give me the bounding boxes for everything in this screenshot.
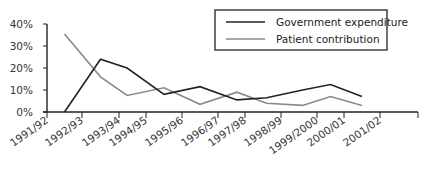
series-line-0	[65, 59, 363, 112]
y-tick-label: 20%	[10, 62, 33, 74]
y-axis: 0%10%20%30%40%	[10, 18, 47, 118]
x-axis: 1991/921992/931993/941994/951995/961996/…	[8, 112, 418, 156]
x-tick-label: 1991/92	[8, 114, 51, 149]
line-chart: 0%10%20%30%40% 1991/921992/931993/941994…	[0, 0, 427, 172]
y-tick-label: 10%	[10, 84, 33, 96]
x-tick-label: 1992/93	[43, 114, 86, 149]
x-tick-label: 1995/96	[143, 114, 186, 149]
legend-label-government: Government expenditure	[276, 16, 408, 28]
y-tick-label: 30%	[10, 40, 33, 52]
legend-label-patient: Patient contribution	[276, 33, 380, 45]
legend: Government expenditure Patient contribut…	[215, 10, 408, 50]
y-tick-label: 0%	[16, 106, 33, 118]
x-tick-label: 2001/02	[341, 114, 384, 149]
y-tick-label: 40%	[10, 18, 33, 30]
